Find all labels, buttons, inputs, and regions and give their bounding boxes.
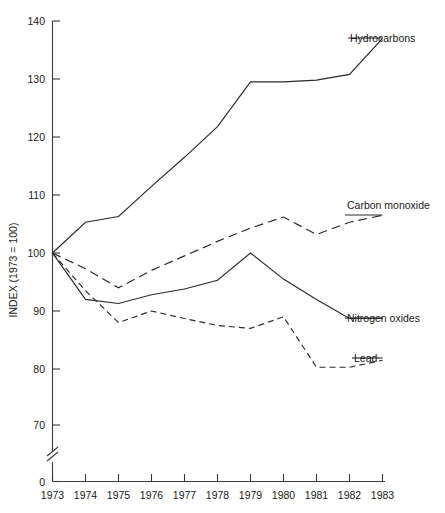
chart-canvas: 140 130 120 110 100 90 80 70 0 INDEX (19… [0,0,445,513]
series-path-nitrogen-oxides [53,253,383,319]
series-label-nitrogen-oxides: Nitrogen oxides [347,312,420,324]
y-tick-label-80: 80 [33,363,45,375]
series-label-carbon-monoxide: Carbon monoxide [347,199,430,211]
x-tick-label-1982: 1982 [338,489,362,501]
x-tick-label-1978: 1978 [206,489,230,501]
series-path-lead [53,253,383,367]
x-axis: 1973 1974 1975 1976 1977 1978 1979 1980 … [41,474,395,501]
series-path-carbon-monoxide [53,215,383,287]
series-label-lead: Lead [354,352,378,364]
x-tick-marks [53,474,383,482]
y-tick-label-130: 130 [27,73,45,85]
y-tick-label-140: 140 [27,15,45,27]
x-tick-label-1973: 1973 [41,489,65,501]
y-tick-label-0: 0 [39,476,45,488]
series-label-hydrocarbons: Hydrocarbons [350,32,415,44]
y-tick-label-110: 110 [28,189,45,201]
x-tick-label-1980: 1980 [272,489,296,501]
series-labels: Hydrocarbons Carbon monoxide Nitrogen ox… [345,32,430,364]
x-tick-label-1979: 1979 [239,489,263,501]
emissions-index-line-chart: 140 130 120 110 100 90 80 70 0 INDEX (19… [0,0,445,513]
y-tick-label-100: 100 [27,247,45,259]
x-tick-label-1974: 1974 [74,489,98,501]
y-tick-label-70: 70 [33,419,45,431]
x-tick-label-1975: 1975 [107,489,131,501]
x-tick-label-1981: 1981 [305,489,329,501]
y-axis: 140 130 120 110 100 90 80 70 0 INDEX (19… [7,15,60,488]
y-axis-title: INDEX (1973 = 100) [7,223,19,318]
y-tick-label-120: 120 [27,131,45,143]
x-tick-label-1977: 1977 [173,489,197,501]
y-tick-label-90: 90 [33,305,45,317]
x-tick-label-1983: 1983 [371,489,395,501]
series-path-hydrocarbons [53,38,383,253]
x-tick-label-1976: 1976 [140,489,164,501]
series-group [53,38,383,367]
